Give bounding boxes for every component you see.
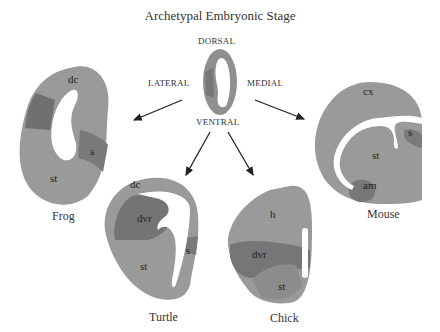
arrow-to-frog xyxy=(134,100,182,120)
diagram-canvas: dc s st dc dvr s st h dvr st cx s st am xyxy=(0,0,440,332)
chick-region-st: st xyxy=(278,280,285,292)
turtle-section: dc dvr s st xyxy=(105,178,199,300)
chick-section: h dvr st xyxy=(228,186,312,304)
turtle-region-st: st xyxy=(140,260,147,272)
turtle-region-dc: dc xyxy=(130,178,141,190)
chick-caption: Chick xyxy=(270,311,299,326)
chick-region-h: h xyxy=(270,208,276,220)
mouse-caption: Mouse xyxy=(367,207,400,222)
mouse-region-st: st xyxy=(372,149,379,161)
frog-caption: Frog xyxy=(52,209,75,224)
chick-region-dvr: dvr xyxy=(252,248,267,260)
frog-region-dc: dc xyxy=(68,73,79,85)
archetype-section xyxy=(203,49,237,115)
mouse-region-am: am xyxy=(363,179,377,191)
turtle-region-dvr: dvr xyxy=(137,212,152,224)
frog-region-st: st xyxy=(50,172,57,184)
frog-section: dc s st xyxy=(20,66,109,204)
turtle-caption: Turtle xyxy=(149,310,178,325)
arrow-to-turtle xyxy=(186,132,210,175)
mouse-region-s: s xyxy=(408,126,412,138)
turtle-region-s: s xyxy=(186,244,190,256)
frog-region-s: s xyxy=(90,145,94,157)
arrow-to-chick xyxy=(228,132,253,175)
mouse-region-cx: cx xyxy=(363,85,374,97)
mouse-section: cx s st am xyxy=(315,82,422,204)
arrow-to-mouse xyxy=(255,100,304,119)
